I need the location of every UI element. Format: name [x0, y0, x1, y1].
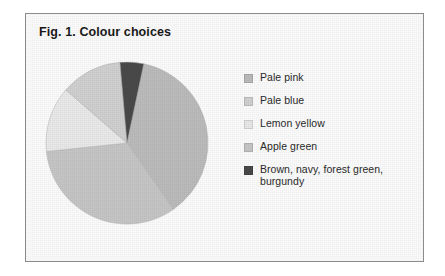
legend-item-label: Lemon yellow	[260, 118, 325, 130]
legend-item-label: Apple green	[260, 141, 317, 153]
legend-item[interactable]: Pale pink	[244, 72, 414, 84]
legend-item[interactable]: Apple green	[244, 141, 414, 153]
pie-chart-svg	[39, 54, 239, 249]
figure-frame: Fig. 1. Colour choices Pale pinkPale blu…	[25, 13, 424, 262]
legend-swatch-icon	[244, 74, 253, 83]
pie-chart	[39, 54, 239, 249]
pie-slices	[46, 62, 208, 224]
figure-title: Fig. 1. Colour choices	[39, 25, 171, 39]
legend: Pale pinkPale blueLemon yellowApple gree…	[244, 72, 414, 199]
legend-item-label: Brown, navy, forest green, burgundy	[260, 164, 414, 187]
legend-item[interactable]: Pale blue	[244, 95, 414, 107]
legend-swatch-icon	[244, 143, 253, 152]
legend-item[interactable]: Lemon yellow	[244, 118, 414, 130]
legend-item[interactable]: Brown, navy, forest green, burgundy	[244, 164, 414, 187]
legend-item-label: Pale pink	[260, 72, 304, 84]
legend-swatch-icon	[244, 166, 253, 175]
legend-swatch-icon	[244, 120, 253, 129]
legend-item-label: Pale blue	[260, 95, 304, 107]
legend-swatch-icon	[244, 97, 253, 106]
